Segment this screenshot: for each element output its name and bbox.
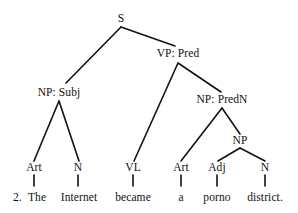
node-s: S (118, 13, 125, 25)
node-n-1: N (74, 162, 82, 174)
word-a: a (178, 192, 183, 204)
branch-s-vppred (121, 27, 175, 46)
word-internet: Internet (61, 192, 98, 204)
node-np-subj: NP: Subj (38, 87, 81, 99)
word-porno: porno (203, 192, 230, 204)
tree-branches (0, 0, 298, 213)
node-art-1: Art (26, 162, 42, 174)
branch-s-npsubj (66, 27, 121, 83)
node-art-2: Art (173, 162, 189, 174)
branch-vppred-vl (134, 63, 178, 161)
word-the: The (28, 192, 46, 204)
branch-nppredn-np (222, 108, 240, 134)
branch-np-adj (218, 148, 240, 161)
node-np-predn: NP: PredN (196, 94, 247, 106)
node-vl: VL (125, 162, 141, 174)
node-adj: Adj (208, 162, 226, 174)
branch-npsubj-n (59, 101, 79, 161)
word-district: district. (247, 192, 283, 204)
branch-vppred-nppredn (178, 63, 221, 92)
branch-np-n (240, 148, 265, 161)
branch-npsubj-art (34, 101, 59, 161)
node-np: NP (233, 135, 248, 147)
item-number: 2. (13, 192, 22, 204)
node-vp-pred: VP: Pred (157, 48, 200, 60)
syntax-tree-figure: S VP: Pred NP: Subj NP: PredN NP Art N V… (0, 0, 298, 213)
branch-nppredn-art (181, 108, 222, 161)
word-became: became (115, 192, 151, 204)
node-n-2: N (261, 162, 269, 174)
